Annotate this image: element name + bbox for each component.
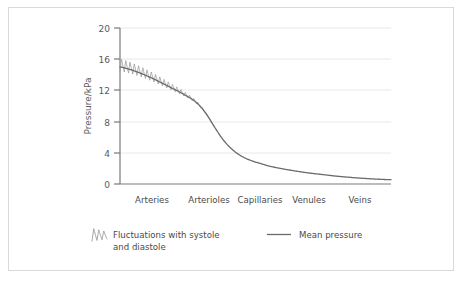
- x-category-label-capillaries: Capillaries: [238, 195, 283, 205]
- squiggle-wave-icon: [92, 229, 107, 241]
- y-gridlines: [120, 28, 391, 153]
- legend-item-fluctuations: Fluctuations with systole and diastole: [92, 229, 220, 252]
- x-category-label-arteries: Arteries: [135, 195, 169, 205]
- figure-canvas: 20 16 12 8 4 0 Pressure/kPa Arteries Art…: [0, 0, 464, 284]
- y-tick-label-12: 12: [99, 86, 110, 96]
- chart-legend: Fluctuations with systole and diastole M…: [92, 229, 362, 252]
- chart-plot: 20 16 12 8 4 0 Pressure/kPa Arteries Art…: [0, 0, 464, 284]
- y-tick-label-16: 16: [99, 55, 111, 65]
- legend-label-fluctuations-line2: and diastole: [113, 242, 166, 252]
- y-tick-label-0: 0: [104, 180, 110, 190]
- legend-label-fluctuations-line1: Fluctuations with systole: [113, 230, 220, 240]
- legend-item-mean-pressure: Mean pressure: [267, 230, 362, 240]
- fluctuation-series: [120, 59, 214, 125]
- y-axis-title: Pressure/kPa: [83, 77, 93, 134]
- y-tick-label-4: 4: [104, 149, 110, 159]
- x-category-label-venules: Venules: [292, 195, 326, 205]
- y-axis: [114, 28, 120, 184]
- y-tick-label-20: 20: [99, 24, 111, 34]
- x-category-label-arterioles: Arterioles: [188, 195, 230, 205]
- y-tick-label-8: 8: [104, 118, 110, 128]
- x-category-label-veins: Veins: [349, 195, 372, 205]
- legend-label-mean-pressure: Mean pressure: [299, 230, 362, 240]
- mean-pressure-series: [120, 67, 391, 180]
